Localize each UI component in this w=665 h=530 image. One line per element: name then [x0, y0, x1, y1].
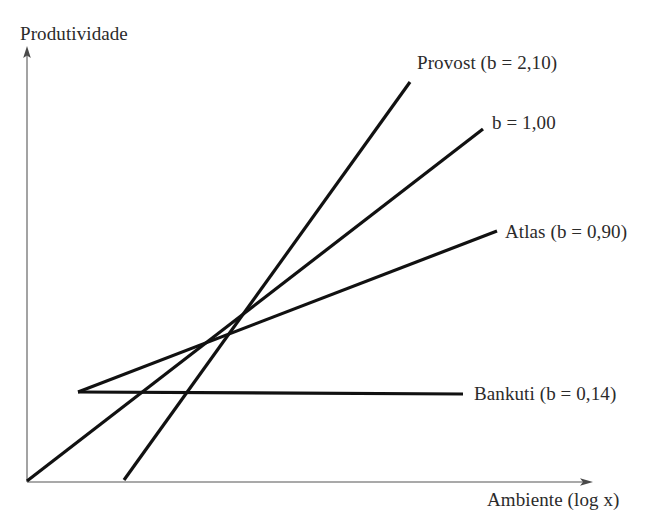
chart-plot-area — [0, 0, 665, 530]
series-label-provost: Provost (b = 2,10) — [417, 53, 557, 72]
chart-figure: Produtividade Ambiente (log x) Provost (… — [0, 0, 665, 530]
series-label-atlas: Atlas (b = 0,90) — [505, 222, 627, 241]
series-label-bankuti: Bankuti (b = 0,14) — [474, 384, 616, 403]
series-line-b100 — [27, 129, 483, 481]
x-axis-label: Ambiente (log x) — [487, 490, 619, 509]
series-line-bankuti — [78, 392, 463, 394]
y-axis-label: Produtividade — [20, 24, 128, 43]
series-label-b100: b = 1,00 — [492, 113, 556, 132]
